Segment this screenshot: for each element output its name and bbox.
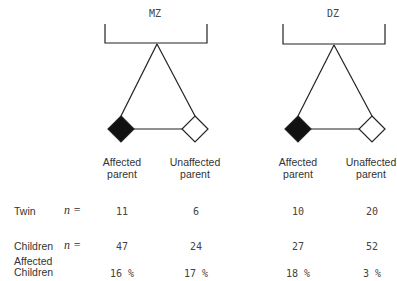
dz-affected-label: Affected parent xyxy=(263,156,333,180)
mz-unaffected-parent-icon xyxy=(182,116,208,142)
row-n-twin: n = xyxy=(64,204,81,216)
mz-pedigree xyxy=(105,24,208,142)
label-line: Affected xyxy=(87,156,157,168)
label-line: parent xyxy=(336,168,397,180)
cell-twin-dz-affected: 10 xyxy=(278,206,318,217)
dz-twin-bracket xyxy=(283,24,385,44)
dz-title: DZ xyxy=(327,8,339,20)
label-line: Unaffected xyxy=(160,156,230,168)
cell-children-dz-unaffected: 52 xyxy=(352,241,392,252)
mz-unaffected-label: Unaffected parent xyxy=(160,156,230,180)
label-line: Unaffected xyxy=(336,156,397,168)
row-label-children: Children xyxy=(14,240,53,252)
cell-affected-dz-affected: 18 % xyxy=(278,268,318,279)
label-line: parent xyxy=(87,168,157,180)
cell-twin-mz-affected: 11 xyxy=(102,206,142,217)
label-line: parent xyxy=(263,168,333,180)
mz-twin-bracket xyxy=(105,24,207,43)
mz-title: MZ xyxy=(149,8,161,20)
cell-children-mz-affected: 47 xyxy=(102,241,142,252)
dz-line-right xyxy=(334,45,372,116)
cell-affected-dz-unaffected: 3 % xyxy=(352,268,392,279)
cell-twin-mz-unaffected: 6 xyxy=(176,206,216,217)
mz-affected-label: Affected parent xyxy=(87,156,157,180)
label-line: Affected xyxy=(263,156,333,168)
row-label-affected-children: Affected Children xyxy=(14,256,53,278)
dz-pedigree xyxy=(283,24,385,142)
cell-affected-mz-affected: 16 % xyxy=(102,268,142,279)
mz-line-left xyxy=(121,44,157,116)
dz-unaffected-label: Unaffected parent xyxy=(336,156,397,180)
row-n-children: n = xyxy=(64,239,81,251)
dz-affected-parent-icon xyxy=(285,116,311,142)
cell-children-dz-affected: 27 xyxy=(278,241,318,252)
label-line: Children xyxy=(14,267,53,278)
row-label-twin: Twin xyxy=(14,205,36,217)
cell-affected-mz-unaffected: 17 % xyxy=(176,268,216,279)
cell-twin-dz-unaffected: 20 xyxy=(352,206,392,217)
cell-children-mz-unaffected: 24 xyxy=(176,241,216,252)
mz-line-right xyxy=(157,44,195,116)
label-line: parent xyxy=(160,168,230,180)
dz-unaffected-parent-icon xyxy=(359,116,385,142)
mz-affected-parent-icon xyxy=(108,116,134,142)
pedigree-diagram xyxy=(0,0,397,281)
dz-line-left xyxy=(298,45,334,116)
